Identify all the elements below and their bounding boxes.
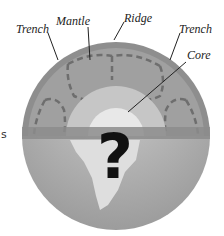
label-trench-right: Trench [179, 22, 212, 37]
label-ridge: Ridge [124, 11, 152, 26]
question-mark: ? [97, 120, 133, 193]
stray-text: s [1, 128, 7, 141]
label-trench-left: Trench [16, 22, 49, 37]
label-mantle: Mantle [56, 14, 90, 29]
label-core: Core [187, 48, 211, 63]
